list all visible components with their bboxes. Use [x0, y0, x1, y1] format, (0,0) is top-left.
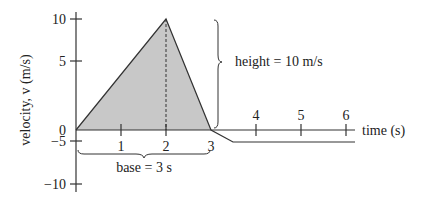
x-tick-4: 4: [253, 108, 260, 123]
y-axis-label: velocity, v (m/s): [18, 54, 34, 146]
y-tick-10: 10: [52, 12, 66, 27]
x-tick-2: 2: [163, 139, 170, 154]
y-tick-5: 5: [59, 54, 66, 69]
height-annotation: height = 10 m/s: [235, 54, 323, 69]
chart-svg: 10 5 0 −5 −10 1 2 3 4 5 6 time (s) heigh…: [0, 0, 424, 202]
x-tick-1: 1: [118, 139, 125, 154]
shaded-triangle: [76, 19, 211, 130]
y-tick-neg10: −10: [44, 177, 66, 192]
x-tick-5: 5: [298, 108, 305, 123]
y-tick-neg5: −5: [51, 134, 66, 149]
base-brace: [78, 150, 210, 158]
velocity-time-chart: 10 5 0 −5 −10 1 2 3 4 5 6 time (s) heigh…: [0, 0, 424, 202]
x-tick-6: 6: [343, 108, 350, 123]
x-tick-3: 3: [208, 139, 215, 154]
base-annotation: base = 3 s: [116, 160, 172, 175]
height-brace: [214, 20, 222, 128]
x-axis-label: time (s): [362, 123, 405, 139]
